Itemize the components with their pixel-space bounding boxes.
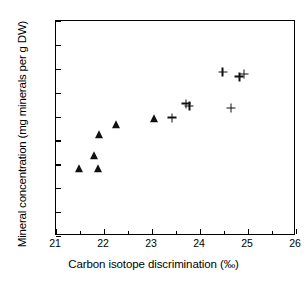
x-tick-minor xyxy=(224,231,225,234)
x-tick-minor xyxy=(272,231,273,234)
data-point-triangle xyxy=(112,121,120,129)
data-point-triangle xyxy=(75,164,83,172)
x-tick-label: 21 xyxy=(49,237,60,249)
y-tick-major xyxy=(56,188,61,189)
y-tick-major xyxy=(56,212,61,213)
data-point-plus xyxy=(218,68,227,77)
y-axis-title: Mineral concentration (mg minerals per g… xyxy=(16,19,28,249)
data-point-plus xyxy=(240,70,249,79)
plot-area xyxy=(56,21,294,234)
data-point-plus xyxy=(185,102,194,111)
x-tick-label: 26 xyxy=(289,237,300,249)
y-tick-major xyxy=(56,69,61,70)
y-tick-major xyxy=(56,21,61,22)
data-point-triangle xyxy=(94,164,102,172)
x-tick-minor xyxy=(80,231,81,234)
x-tick-minor xyxy=(176,231,177,234)
x-tick-major xyxy=(248,229,249,234)
x-tick-major xyxy=(104,229,105,234)
y-tick-major xyxy=(56,140,61,141)
x-tick-label: 25 xyxy=(241,237,252,249)
x-tick-major xyxy=(296,229,297,234)
y-tick-major xyxy=(56,164,61,165)
y-tick-major xyxy=(56,45,61,46)
data-point-triangle xyxy=(150,115,158,123)
x-tick-major xyxy=(200,229,201,234)
x-tick-major xyxy=(152,229,153,234)
plot-frame xyxy=(55,20,295,235)
data-point-triangle xyxy=(90,151,98,159)
x-tick-label: 24 xyxy=(193,237,204,249)
x-tick-label: 22 xyxy=(97,237,108,249)
x-tick-minor xyxy=(128,231,129,234)
data-point-plus xyxy=(168,113,177,122)
x-tick-label: 23 xyxy=(145,237,156,249)
y-tick-major xyxy=(56,117,61,118)
y-tick-major xyxy=(56,93,61,94)
scatter-chart-figure: 30405060708090100110120 Carbon isotope d… xyxy=(0,0,307,282)
x-axis-title: Carbon isotope discrimination (‰) xyxy=(0,258,307,270)
x-tick-major xyxy=(56,229,57,234)
data-point-triangle xyxy=(95,130,103,138)
data-point-plus xyxy=(227,104,236,113)
